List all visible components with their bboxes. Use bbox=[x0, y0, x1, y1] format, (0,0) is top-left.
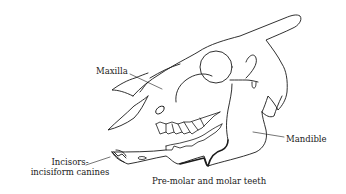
maxilla-label: Maxilla bbox=[96, 66, 128, 76]
infraorbital-foramen bbox=[154, 104, 166, 115]
premaxilla-outline bbox=[108, 96, 148, 130]
mandible-ramus-back bbox=[262, 96, 282, 117]
incisors-label-line2: incisiform canines bbox=[30, 167, 110, 177]
snout-upper-outline bbox=[112, 73, 148, 96]
skull-diagram: Maxilla Mandible Incisors- incisiform ca… bbox=[0, 0, 346, 194]
mandible-outline bbox=[112, 112, 267, 166]
maxilla-ridge bbox=[176, 74, 212, 102]
lower-teeth-row bbox=[166, 124, 222, 150]
molars-label: Pre-molar and molar teeth bbox=[152, 176, 266, 186]
incisors-label-line1: Incisors- bbox=[30, 157, 110, 167]
mandible-label: Mandible bbox=[286, 134, 327, 144]
mandible-ramus-front bbox=[227, 84, 233, 140]
zygomatic-arch bbox=[230, 55, 258, 88]
orbit bbox=[200, 51, 232, 83]
cranium-outline bbox=[133, 15, 301, 112]
incisors-label: Incisors- incisiform canines bbox=[30, 157, 110, 177]
mandible-leader bbox=[253, 132, 284, 137]
mental-foramen bbox=[138, 157, 146, 160]
